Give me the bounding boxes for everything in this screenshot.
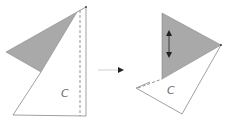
left-label-c: C <box>61 87 69 100</box>
right-shaded-triangle <box>162 13 221 79</box>
transition-arrow-icon <box>98 67 124 73</box>
right-label-c: C <box>167 84 175 97</box>
left-figure: C <box>6 6 87 116</box>
right-figure: C <box>136 13 222 114</box>
left-shaded-triangle <box>6 12 77 72</box>
right-fold-dashed-line <box>138 79 162 88</box>
folding-diagram: C C <box>0 0 230 123</box>
